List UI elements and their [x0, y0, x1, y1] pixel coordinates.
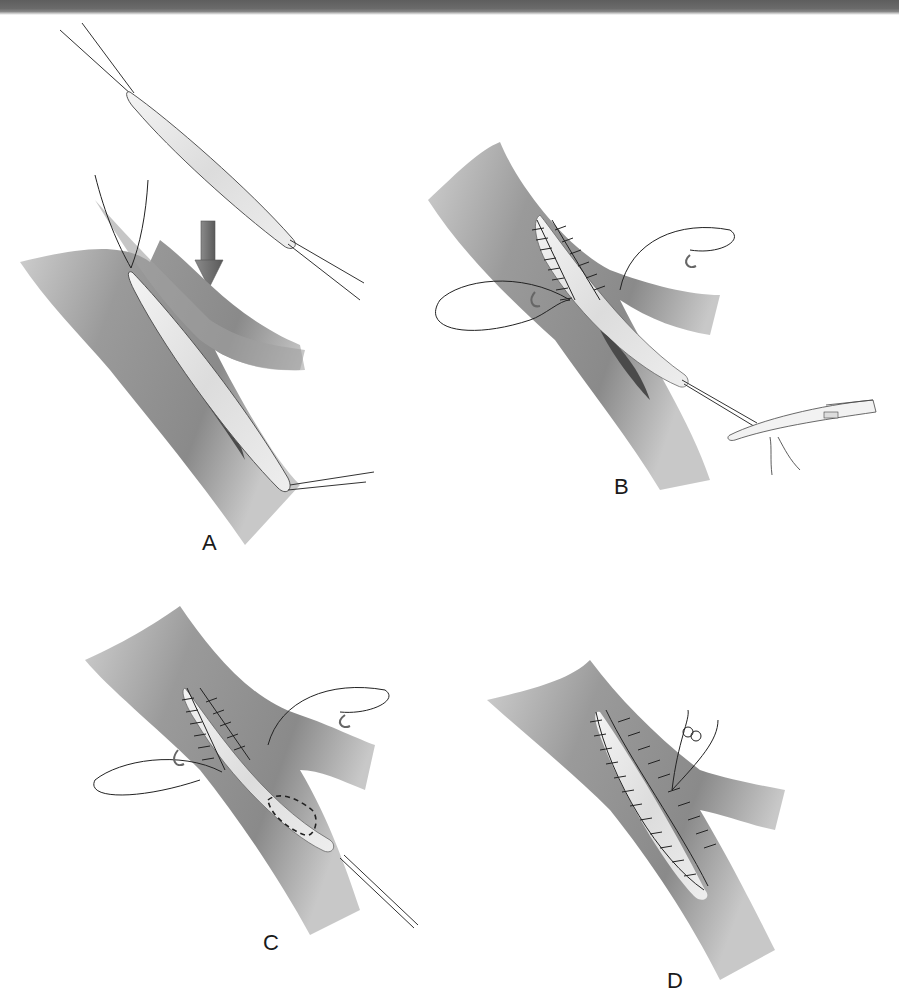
- needle-holder-icon: [728, 400, 876, 475]
- vessel-c: [85, 606, 418, 935]
- panel-label-a: A: [202, 530, 217, 556]
- patch-angioplasty-illustration: [0, 0, 899, 1004]
- panel-c: [85, 606, 418, 935]
- panel-label-b: B: [614, 474, 629, 500]
- panel-d: [487, 660, 785, 980]
- panel-label-c: C: [263, 930, 279, 956]
- panel-b: [428, 142, 876, 490]
- vessel-a: [20, 175, 374, 545]
- panel-a: [20, 23, 374, 545]
- panel-label-d: D: [667, 968, 683, 994]
- vessel-b: [428, 142, 876, 490]
- vessel-d: [487, 660, 785, 980]
